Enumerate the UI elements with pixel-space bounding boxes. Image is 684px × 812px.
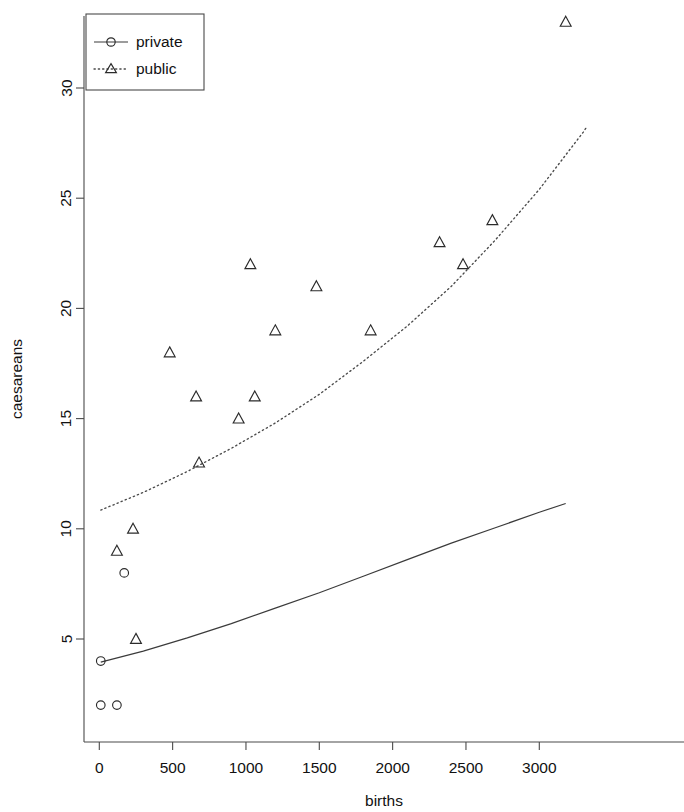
data-points-private bbox=[96, 569, 128, 710]
data-point-private bbox=[120, 569, 129, 578]
x-tick-label: 1000 bbox=[229, 759, 264, 776]
y-tick-label: 25 bbox=[58, 190, 75, 207]
fit-curve-public bbox=[101, 128, 586, 510]
x-tick-label: 500 bbox=[160, 759, 186, 776]
data-point-public bbox=[434, 237, 445, 247]
x-tick-label: 0 bbox=[95, 759, 104, 776]
data-point-public bbox=[131, 633, 142, 643]
data-points-public bbox=[111, 16, 571, 643]
data-point-public bbox=[270, 325, 281, 335]
data-point-public bbox=[245, 259, 256, 269]
legend-label-public: public bbox=[136, 60, 177, 77]
data-point-public bbox=[249, 391, 260, 401]
legend: private public bbox=[86, 14, 204, 90]
data-point-public bbox=[111, 545, 122, 555]
data-point-public bbox=[365, 325, 376, 335]
chart-container: 51015202530 050010001500200025003000 bir… bbox=[0, 0, 684, 812]
x-tick-label: 1500 bbox=[302, 759, 337, 776]
legend-box bbox=[86, 14, 204, 90]
y-tick-label: 20 bbox=[58, 299, 75, 317]
data-point-private bbox=[113, 701, 122, 710]
x-tick-label: 2000 bbox=[375, 759, 410, 776]
y-tick-label: 10 bbox=[58, 520, 75, 538]
data-point-public bbox=[233, 413, 244, 423]
x-axis-title: births bbox=[365, 792, 403, 809]
data-point-public bbox=[194, 457, 205, 467]
x-tick-label: 3000 bbox=[522, 759, 557, 776]
data-point-public bbox=[164, 347, 175, 357]
y-tick-label: 15 bbox=[58, 410, 75, 427]
data-point-public bbox=[311, 281, 322, 291]
y-tick-label: 30 bbox=[58, 79, 75, 97]
x-tick-label: 2500 bbox=[449, 759, 484, 776]
y-tick-label: 5 bbox=[58, 635, 75, 644]
scatter-plot: 51015202530 050010001500200025003000 bir… bbox=[0, 0, 684, 812]
data-point-public bbox=[560, 16, 571, 26]
fit-curve-private bbox=[101, 503, 566, 662]
data-point-public bbox=[458, 259, 469, 269]
data-point-public bbox=[487, 215, 498, 225]
x-axis: 050010001500200025003000 bbox=[84, 742, 684, 776]
legend-label-private: private bbox=[136, 33, 183, 50]
y-axis: 51015202530 bbox=[58, 16, 85, 742]
data-point-private bbox=[96, 701, 105, 710]
data-point-public bbox=[191, 391, 202, 401]
data-point-public bbox=[128, 523, 139, 533]
y-axis-title: caesareans bbox=[8, 339, 25, 419]
